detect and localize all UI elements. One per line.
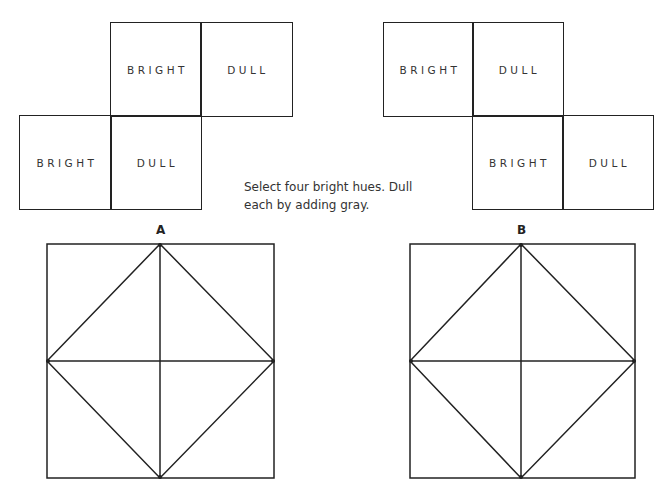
cell-bright-b2: BRIGHT <box>472 115 564 210</box>
cell-label: DULL <box>499 64 540 76</box>
cell-label: BRIGHT <box>127 64 188 76</box>
cell-dull-a1: DULL <box>200 22 293 117</box>
cell-bright-b1: BRIGHT <box>383 22 474 117</box>
diagram-b <box>409 243 637 480</box>
cell-label: DULL <box>137 157 178 169</box>
diagram-b-label: B <box>517 223 526 237</box>
cell-label: BRIGHT <box>36 157 97 169</box>
cell-bright-a1: BRIGHT <box>110 22 202 117</box>
cell-label: DULL <box>227 64 268 76</box>
cell-bright-a2: BRIGHT <box>19 115 112 210</box>
cell-dull-a2: DULL <box>110 115 202 210</box>
cell-dull-b2: DULL <box>562 115 654 210</box>
cell-label: DULL <box>589 157 630 169</box>
cell-label: BRIGHT <box>399 64 460 76</box>
instruction-text: Select four bright hues. Dull each by ad… <box>244 178 424 214</box>
diagram-a <box>46 243 276 480</box>
cell-label: BRIGHT <box>489 157 550 169</box>
cell-dull-b1: DULL <box>472 22 564 117</box>
diagram-a-label: A <box>156 223 165 237</box>
